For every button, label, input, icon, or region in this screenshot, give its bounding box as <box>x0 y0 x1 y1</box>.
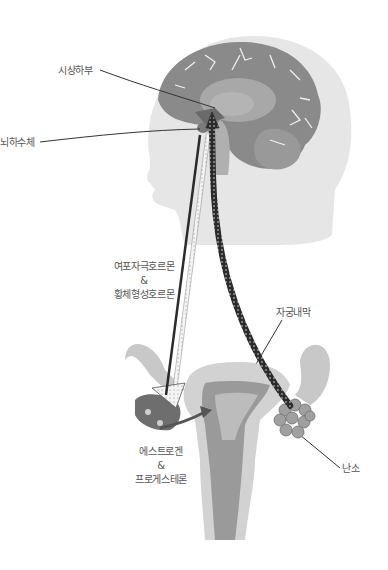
label-estrogen: 에스트로겐 <box>128 445 194 459</box>
label-amp-2: & <box>128 459 194 473</box>
label-progesterone: 프로게스테론 <box>128 473 194 487</box>
label-endometrium: 자궁내막 <box>276 306 311 320</box>
label-pituitary: 뇌하수체 <box>0 136 35 150</box>
label-hypothalamus: 시상하부 <box>58 64 93 78</box>
label-amp-1: & <box>102 274 186 288</box>
label-fsh: 여포자극호르몬 <box>102 260 186 274</box>
reproductive-hormone-diagram <box>0 0 388 570</box>
label-sex-hormones: 에스트로겐 & 프로게스테론 <box>128 445 194 487</box>
label-lh: 황체형성호르몬 <box>102 288 186 302</box>
uterus <box>125 344 330 540</box>
label-gonadotropins: 여포자극호르몬 & 황체형성호르몬 <box>102 260 186 302</box>
label-ovary: 난소 <box>342 462 359 476</box>
ovary-follicles <box>274 399 315 438</box>
